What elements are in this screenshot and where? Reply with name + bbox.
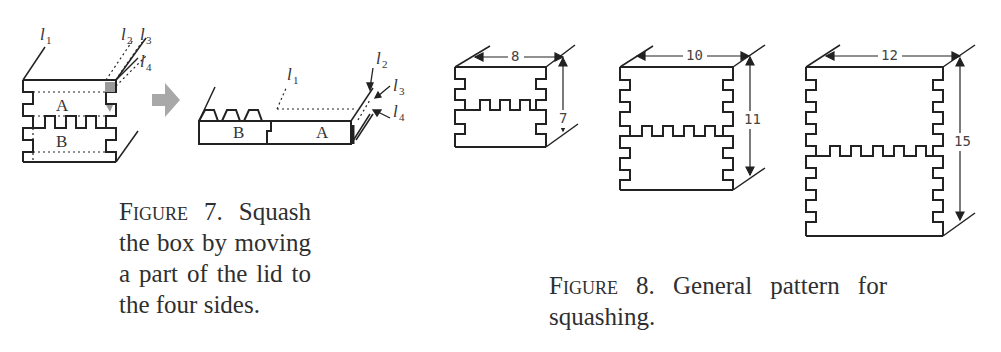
svg-text:1: 1 (293, 74, 299, 86)
svg-text:3: 3 (399, 85, 405, 97)
svg-text:4: 4 (146, 61, 152, 73)
fig8-dimension-labels: 8 7 10 11 12 15 (508, 47, 976, 151)
box-2-height: 11 (744, 111, 761, 127)
figure-8-caption: Figure 8. General pattern for squashing. (549, 270, 887, 332)
svg-text:l: l (393, 76, 398, 95)
box-1-height: 7 (559, 110, 567, 126)
svg-text:2: 2 (382, 58, 388, 70)
svg-text:3: 3 (146, 34, 152, 46)
label-A-squashed: A (316, 123, 329, 142)
box-3-height: 15 (954, 133, 971, 149)
fig8-box-2-dims (637, 52, 754, 175)
svg-text:l: l (40, 25, 45, 44)
figure-7-caption: Figure 7. Squash the box by moving a par… (119, 196, 311, 320)
box-1-width: 8 (511, 48, 519, 64)
label-A: A (56, 96, 69, 115)
fig7-box (23, 38, 146, 162)
svg-text:l: l (140, 25, 145, 44)
label-B-squashed: B (233, 123, 244, 142)
fig8-box-1-dims (475, 53, 567, 131)
svg-text:l: l (376, 49, 381, 68)
fig7-box-labels: A B l1 l2 l3 l4 (40, 25, 152, 151)
svg-text:l: l (393, 102, 398, 121)
fig8-box-3 (806, 45, 975, 236)
svg-text:2: 2 (127, 34, 133, 46)
svg-text:4: 4 (399, 111, 405, 123)
label-B: B (56, 132, 67, 151)
box-2-width: 10 (686, 47, 703, 63)
figure-8-label: Figure 8. (549, 272, 655, 299)
svg-text:1: 1 (46, 34, 52, 46)
box-3-width: 12 (881, 47, 898, 63)
figure-7-label: Figure 7. (119, 198, 223, 225)
transform-arrow-icon (152, 83, 180, 117)
svg-text:l: l (121, 25, 126, 44)
svg-text:l: l (140, 52, 145, 71)
fig7-squashed-box (199, 86, 373, 144)
svg-text:l: l (287, 65, 292, 84)
